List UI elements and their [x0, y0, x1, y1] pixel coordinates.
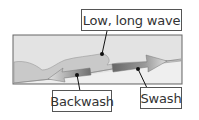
label-backwash: Backwash [52, 90, 112, 112]
label-low-long-wave: Low, long wave [81, 9, 182, 31]
label-swash: Swash [140, 87, 182, 109]
